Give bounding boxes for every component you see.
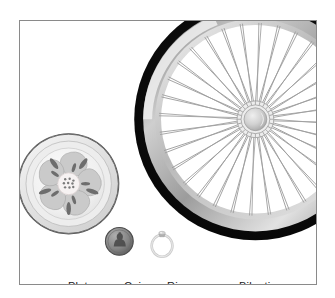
bike-tire-graphic bbox=[134, 21, 316, 240]
hub bbox=[237, 101, 274, 138]
label-coin: Coin bbox=[124, 280, 147, 285]
comparison-figure: Plate Coin Ring Bike tire bbox=[0, 0, 335, 298]
label-ring: Ring bbox=[167, 280, 190, 285]
figure-frame: Plate Coin Ring Bike tire bbox=[19, 20, 317, 285]
objects-illustration bbox=[20, 21, 316, 284]
label-plate: Plate bbox=[68, 280, 94, 285]
ring-gem-setting bbox=[159, 231, 166, 236]
label-bike-tire: Bike tire bbox=[239, 280, 281, 285]
ring-graphic bbox=[152, 231, 173, 256]
plate-center-medallion bbox=[58, 173, 80, 195]
coin-graphic bbox=[105, 227, 133, 255]
plate-graphic bbox=[20, 133, 119, 234]
